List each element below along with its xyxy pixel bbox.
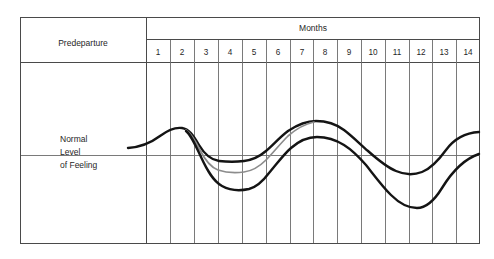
month-column-12: 12 bbox=[416, 48, 426, 57]
predeparture-header-label: Predeparture bbox=[58, 38, 108, 48]
month-column-14: 14 bbox=[463, 48, 473, 57]
month-column-13: 13 bbox=[439, 48, 449, 57]
month-column-3: 3 bbox=[204, 48, 209, 57]
month-column-7: 7 bbox=[300, 48, 305, 57]
chart-canvas: Predeparture Months 1 2 3 4 5 6 7 8 9 10… bbox=[0, 0, 494, 259]
month-column-11: 11 bbox=[393, 48, 402, 57]
axis-label-line-1: Normal bbox=[60, 134, 88, 144]
month-column-1: 1 bbox=[156, 48, 161, 57]
adjustment-curve-figure: Predeparture Months 1 2 3 4 5 6 7 8 9 10… bbox=[0, 0, 494, 259]
month-column-4: 4 bbox=[228, 48, 233, 57]
month-column-6: 6 bbox=[276, 48, 281, 57]
month-column-5: 5 bbox=[252, 48, 257, 57]
months-header-label: Months bbox=[299, 23, 327, 33]
month-column-2: 2 bbox=[180, 48, 185, 57]
month-column-9: 9 bbox=[347, 48, 352, 57]
month-column-8: 8 bbox=[323, 48, 328, 57]
axis-label-line-2: Level bbox=[60, 147, 80, 157]
axis-label-line-3: of Feeling bbox=[60, 160, 98, 170]
month-column-10: 10 bbox=[368, 48, 378, 57]
